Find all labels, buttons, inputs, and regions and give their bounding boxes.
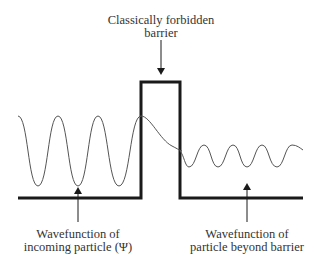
transmitted-arrow	[243, 183, 251, 222]
incoming-label-line2: incoming particle (Ψ)	[22, 241, 134, 254]
barrier-label: Classically forbidden barrier	[100, 14, 222, 40]
incoming-wavefunction	[18, 116, 182, 186]
incoming-label: Wavefunction of incoming particle (Ψ)	[22, 228, 134, 254]
transmitted-wavefunction	[180, 145, 303, 167]
potential-barrier	[18, 82, 303, 198]
barrier-arrow	[157, 40, 165, 75]
incoming-arrow	[74, 187, 82, 222]
barrier-label-line2: barrier	[100, 27, 222, 40]
transmitted-label: Wavefunction of particle beyond barrier	[186, 228, 308, 254]
transmitted-label-line2: particle beyond barrier	[186, 241, 308, 254]
